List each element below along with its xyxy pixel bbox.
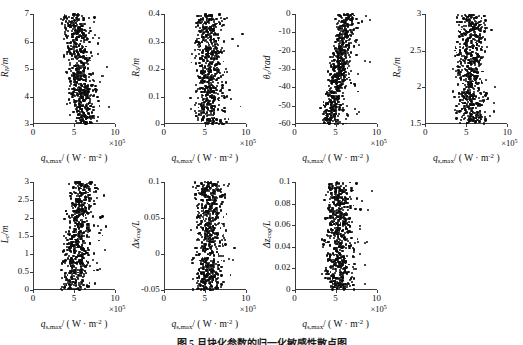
scatter-point (82, 120, 84, 122)
scatter-point (198, 53, 200, 55)
scatter-point (77, 233, 79, 235)
scatter-point (477, 87, 479, 89)
panel-rn-xtick-label: 10 (103, 127, 127, 137)
scatter-point (352, 284, 354, 286)
scatter-point (330, 118, 332, 120)
panel-rm-y-axis-label: Rm/m (392, 47, 403, 87)
scatter-point (200, 91, 202, 93)
scatter-point (78, 227, 80, 229)
scatter-point (197, 215, 199, 217)
scatter-point (455, 117, 457, 119)
scatter-point (199, 253, 201, 255)
panel-rs-xtick-label: 10 (234, 127, 258, 137)
scatter-point (468, 78, 470, 80)
scatter-point (88, 194, 90, 196)
scatter-point (339, 249, 341, 251)
scatter-point (65, 272, 67, 274)
scatter-point (84, 288, 86, 290)
scatter-point (191, 53, 193, 55)
scatter-point (90, 184, 92, 186)
panel-lc-ytick-mark (30, 200, 33, 201)
scatter-point (205, 22, 207, 24)
scatter-point (92, 37, 94, 39)
scatter-point (93, 252, 95, 254)
scatter-point (72, 207, 74, 209)
scatter-point (220, 286, 222, 288)
scatter-point (71, 237, 73, 239)
scatter-point (69, 64, 71, 66)
scatter-point (359, 253, 361, 255)
scatter-point (205, 62, 207, 64)
scatter-point (78, 231, 80, 233)
scatter-point (484, 19, 486, 21)
scatter-point (217, 281, 219, 283)
scatter-point (459, 110, 461, 112)
panel-rm-ytick-mark (422, 51, 425, 52)
scatter-point (348, 264, 350, 266)
scatter-point (85, 214, 87, 216)
scatter-point (330, 114, 332, 116)
scatter-point (212, 81, 214, 83)
scatter-point (196, 288, 198, 290)
scatter-point (215, 263, 217, 265)
scatter-point (342, 183, 344, 185)
scatter-point (353, 251, 355, 253)
scatter-point (343, 49, 345, 51)
scatter-point (191, 262, 193, 264)
panel-dxcog-x-exponent: ×105 (240, 304, 256, 314)
scatter-point (96, 197, 98, 199)
scatter-point (90, 211, 92, 213)
panel-dzcog-xtick-label: 0 (283, 293, 307, 303)
scatter-point (217, 108, 219, 110)
panel-rs-ytick-label: 0.1 (134, 91, 160, 101)
scatter-point (77, 269, 79, 271)
scatter-point (200, 289, 202, 291)
scatter-point (361, 20, 363, 22)
scatter-point (356, 197, 358, 199)
scatter-point (93, 115, 95, 117)
scatter-point (63, 243, 65, 245)
scatter-point (223, 96, 225, 98)
scatter-point (204, 194, 206, 196)
scatter-point (80, 76, 82, 78)
scatter-point (205, 204, 207, 206)
scatter-point (353, 277, 355, 279)
scatter-point (336, 23, 338, 25)
scatter-point (474, 85, 476, 87)
scatter-point (350, 189, 352, 191)
scatter-point (75, 120, 77, 122)
scatter-point (345, 185, 347, 187)
scatter-point (212, 281, 214, 283)
scatter-point (87, 112, 89, 114)
scatter-point (74, 225, 76, 227)
scatter-point (69, 42, 71, 44)
scatter-point (459, 66, 461, 68)
scatter-point (216, 209, 218, 211)
scatter-point (228, 89, 230, 91)
scatter-point (240, 106, 242, 108)
scatter-point (216, 237, 218, 239)
panel-theta-ytick-mark (292, 14, 295, 15)
scatter-point (192, 278, 194, 280)
scatter-point (355, 18, 357, 20)
panel-dxcog-ytick-mark (161, 182, 164, 183)
scatter-point (329, 237, 331, 239)
scatter-point (337, 34, 339, 36)
scatter-point (347, 202, 349, 204)
scatter-point (70, 241, 72, 243)
scatter-point (88, 285, 90, 287)
scatter-point (87, 67, 89, 69)
scatter-point (200, 199, 202, 201)
panel-dzcog-ytick-label: 0.1 (265, 176, 291, 186)
panel-dxcog-y-axis-label: Δxcog/L (130, 214, 141, 254)
scatter-point (63, 38, 65, 40)
panel-row-bottom: 00.511.522.53Lc/m0510×105qs,max/ ( W · m… (0, 172, 523, 335)
scatter-point (99, 268, 101, 270)
scatter-point (476, 60, 478, 62)
panel-rm-ytick-mark (422, 14, 425, 15)
scatter-point (74, 278, 76, 280)
scatter-point (80, 200, 82, 202)
panel-dxcog-xtick-label: 5 (193, 293, 217, 303)
scatter-point (108, 106, 110, 108)
scatter-point (75, 284, 77, 286)
